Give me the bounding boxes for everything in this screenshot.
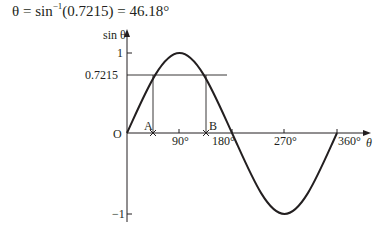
x-tick-label-270: 270° <box>274 134 297 148</box>
origin-label: O <box>113 127 122 141</box>
y-tick-label-07215: 0.7215 <box>85 68 118 82</box>
x-tick-label-90: 90° <box>172 134 189 148</box>
sine-graph: sin θ θ O 1 0.7215 −1 90° 180° 270° 360°… <box>0 0 389 233</box>
x-tick-label-180: 180° <box>212 134 235 148</box>
y-tick-label-neg1: −1 <box>112 207 125 221</box>
point-label-a: A <box>144 119 153 133</box>
y-tick-label-1: 1 <box>117 46 123 60</box>
point-label-b: B <box>209 119 217 133</box>
y-axis-label: sin θ <box>103 28 126 42</box>
x-axis-label: θ <box>366 136 372 150</box>
x-tick-label-360: 360° <box>338 134 361 148</box>
